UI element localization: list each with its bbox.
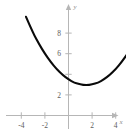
y-axis-arrow-icon [66,4,71,10]
x-tick-label--4: -4 [18,121,24,130]
y-tick-label-8: 8 [57,29,61,38]
x-axis-label: x [118,118,123,126]
x-tick-label--2: -2 [42,121,48,130]
parabola-curve [26,17,126,85]
y-axis-label: y [72,3,77,11]
x-tick-label-4: 4 [114,121,118,130]
y-tick-label-6: 6 [57,49,61,58]
x-tick-label-2: 2 [90,121,94,130]
plot-area: -4 -2 2 4 2 6 8 x y [0,0,126,137]
parabola-figure: -4 -2 2 4 2 6 8 x y [0,0,126,137]
y-tick-label-2: 2 [57,91,61,100]
